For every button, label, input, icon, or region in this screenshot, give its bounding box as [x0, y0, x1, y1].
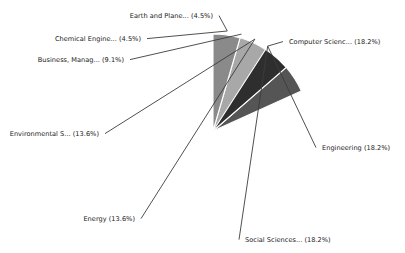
- pie-chart-figure: Computer Scienc... (18.2%)Engineering (1…: [0, 0, 405, 253]
- pie-slice-label: Engineering (18.2%): [322, 144, 390, 152]
- pie-slice-label: Chemical Engine... (4.5%): [55, 35, 141, 43]
- pie-slice-label: Business, Manag... (9.1%): [38, 56, 124, 64]
- pie-slice-label: Earth and Plane... (4.5%): [130, 12, 213, 20]
- pie-slice-label: Computer Scienc... (18.2%): [289, 38, 380, 46]
- pie-slice-label: Energy (13.6%): [83, 215, 135, 223]
- pie-slice-label: Social Sciences... (18.2%): [245, 236, 331, 244]
- pie-slice-label: Environmental S... (13.6%): [10, 130, 99, 138]
- pie-chart-canvas: Computer Scienc... (18.2%)Engineering (1…: [0, 0, 405, 253]
